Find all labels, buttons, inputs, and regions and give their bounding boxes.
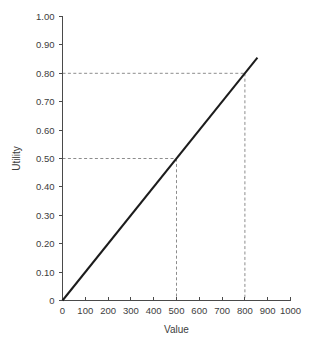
x-tick-label: 500 xyxy=(169,305,185,316)
x-tick-label: 900 xyxy=(260,305,276,316)
data-series-line xyxy=(63,58,258,301)
y-tick-label: 0.70 xyxy=(36,96,55,107)
y-tick-label: 1.00 xyxy=(36,11,55,22)
y-tick-label: 0.10 xyxy=(36,267,55,278)
data-group xyxy=(63,58,258,301)
x-tick-label: 300 xyxy=(123,305,139,316)
x-tick-label: 700 xyxy=(214,305,230,316)
y-tick-label: 0.60 xyxy=(36,125,55,136)
y-tick-label: 0 xyxy=(49,295,54,306)
y-tick-label: 0.90 xyxy=(36,39,55,50)
y-tick-label: 0.40 xyxy=(36,181,55,192)
x-tick-label: 800 xyxy=(237,305,253,316)
chart-canvas: 0100200300400500600700800900100000.100.2… xyxy=(0,0,317,345)
y-tick-label: 0.20 xyxy=(36,238,55,249)
y-tick-label: 0.30 xyxy=(36,210,55,221)
x-tick-label: 400 xyxy=(146,305,162,316)
x-tick-label: 200 xyxy=(100,305,116,316)
x-tick-label: 0 xyxy=(60,305,65,316)
y-axis-title: Utility xyxy=(11,146,22,170)
label-group: 0100200300400500600700800900100000.100.2… xyxy=(11,11,301,335)
x-tick-label: 600 xyxy=(191,305,207,316)
x-axis-title: Value xyxy=(164,324,189,335)
utility-value-chart: 0100200300400500600700800900100000.100.2… xyxy=(0,0,317,345)
y-tick-label: 0.80 xyxy=(36,68,55,79)
x-tick-label: 100 xyxy=(77,305,93,316)
x-tick-label: 1000 xyxy=(280,305,301,316)
y-tick-label: 0.50 xyxy=(36,153,55,164)
